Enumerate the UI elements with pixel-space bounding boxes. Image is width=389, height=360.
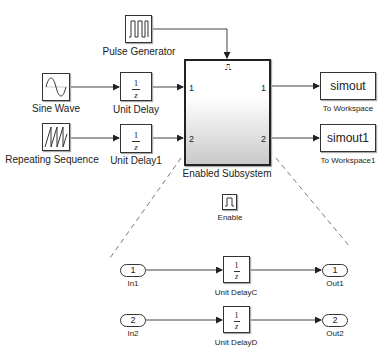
repeating-sequence-block[interactable] <box>42 123 70 151</box>
signal-lines <box>0 0 389 360</box>
unit-delayc-block[interactable]: 1 z <box>223 256 250 283</box>
out1-label: Out1 <box>326 279 343 288</box>
pulse-generator-block[interactable] <box>125 15 152 43</box>
sine-icon <box>43 74 69 100</box>
enable-pulse-icon <box>223 195 236 209</box>
subsystem-in-port-1: 1 <box>189 83 194 93</box>
subsystem-out-port-2: 2 <box>261 134 266 144</box>
subsystem-in-port-2: 2 <box>189 134 194 144</box>
to-workspace-block[interactable]: simout <box>320 72 376 100</box>
unit-delay1-block[interactable]: 1 z <box>120 124 152 153</box>
enable-label: Enable <box>218 213 243 222</box>
in2-label: In2 <box>127 329 138 338</box>
to-workspace-label: To Workspace <box>323 104 374 113</box>
sawtooth-icon <box>43 124 69 150</box>
sine-wave-label: Sine Wave <box>32 103 80 114</box>
inport-in1[interactable]: 1 <box>120 264 146 277</box>
outport-out1[interactable]: 1 <box>322 264 348 277</box>
subsystem-out-port-1: 1 <box>261 83 266 93</box>
repeating-sequence-label: Repeating Sequence <box>5 154 98 165</box>
pulse-icon <box>126 16 151 42</box>
enable-block[interactable] <box>222 194 237 210</box>
enabled-subsystem-block[interactable]: ⎍ 1 2 1 2 <box>184 59 271 166</box>
unit-delayc-label: Unit DelayC <box>215 288 258 297</box>
enable-port-glyph: ⎍ <box>186 62 269 73</box>
enabled-subsystem-label: Enabled Subsystem <box>183 168 272 179</box>
in1-label: In1 <box>127 279 138 288</box>
unit-delay-block[interactable]: 1 z <box>120 72 152 101</box>
unit-delay-label: Unit Delay <box>113 104 159 115</box>
outport-out2[interactable]: 2 <box>322 314 348 327</box>
to-workspace1-label: To Workspace1 <box>321 156 376 165</box>
to-workspace1-block[interactable]: simout1 <box>320 124 376 152</box>
unit-delayd-block[interactable]: 1 z <box>223 306 250 333</box>
inport-in2[interactable]: 2 <box>120 314 146 327</box>
pulse-generator-label: Pulse Generator <box>103 46 176 57</box>
unit-delay1-label: Unit Delay1 <box>110 155 162 166</box>
sine-wave-block[interactable] <box>42 73 70 101</box>
unit-delayd-label: Unit DelayD <box>215 338 258 347</box>
out2-label: Out2 <box>326 329 343 338</box>
